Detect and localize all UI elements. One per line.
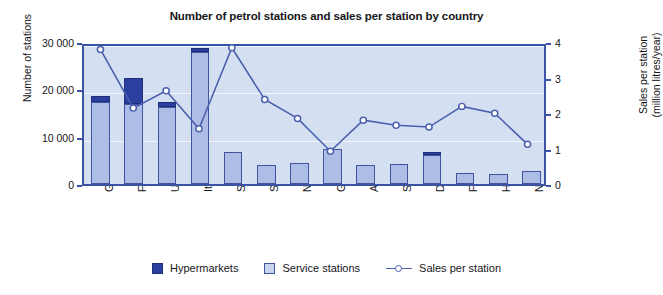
legend-swatch-hypermarkets-icon: [152, 263, 163, 274]
line-marker: [97, 46, 103, 52]
y-tick-mark-right: [546, 150, 551, 152]
y-axis-label-right: Sales per station (million litres/year): [637, 10, 663, 140]
y-tick-mark-right: [546, 43, 551, 45]
y-tick-label-right: 4: [555, 37, 561, 49]
y-tick-label-right: 0: [555, 179, 561, 191]
legend-swatch-service-stations-icon: [264, 263, 275, 274]
line-marker: [262, 96, 268, 102]
y-tick-label-left: 10 000: [22, 132, 74, 144]
line-marker: [229, 45, 235, 51]
line-marker: [524, 141, 530, 147]
plot-area: [82, 44, 546, 186]
y-tick-mark-right: [546, 185, 551, 187]
line-path-sales-per-station: [100, 48, 527, 152]
legend-label-sales-per-station: Sales per station: [419, 262, 501, 274]
legend-item-service-stations: Service stations: [264, 262, 360, 274]
line-marker: [459, 103, 465, 109]
line-marker: [196, 126, 202, 132]
line-marker: [163, 88, 169, 94]
y-tick-label-right: 3: [555, 73, 561, 85]
y-axis-label-right-line1: Sales per station: [637, 10, 650, 140]
legend-item-sales-per-station: Sales per station: [386, 262, 501, 274]
y-tick-mark-right: [546, 79, 551, 81]
line-marker: [327, 148, 333, 154]
y-tick-label-left: 30 000: [22, 37, 74, 49]
legend-item-hypermarkets: Hypermarkets: [152, 262, 238, 274]
legend-label-service-stations: Service stations: [282, 262, 360, 274]
line-marker: [426, 124, 432, 130]
y-axis-label-right-line2: (million litres/year): [650, 10, 663, 140]
line-marker: [360, 117, 366, 123]
line-marker: [492, 110, 498, 116]
y-tick-mark-right: [546, 114, 551, 116]
line-marker: [130, 105, 136, 111]
y-tick-label-right: 2: [555, 108, 561, 120]
y-tick-label-left: 20 000: [22, 84, 74, 96]
line-series-sales-per-station: [84, 46, 544, 184]
legend-label-hypermarkets: Hypermarkets: [170, 262, 238, 274]
chart-legend: Hypermarkets Service stations Sales per …: [0, 262, 653, 274]
y-tick-label-left: 0: [22, 179, 74, 191]
legend-line-marker-icon: [386, 263, 412, 274]
line-marker: [294, 115, 300, 121]
line-marker: [393, 122, 399, 128]
chart-title: Number of petrol stations and sales per …: [0, 10, 653, 22]
y-tick-label-right: 1: [555, 144, 561, 156]
y-axis-label-left: Number of stations: [21, 0, 33, 133]
